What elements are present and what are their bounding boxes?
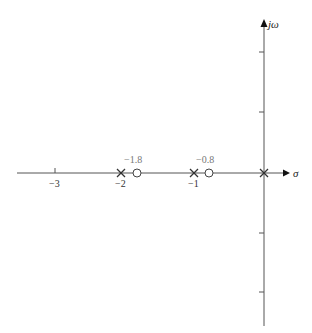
zero-label-minus-0-8: −0.8 <box>196 154 214 165</box>
zero-marker-minus-0-8 <box>205 169 213 177</box>
real-axis-arrow-icon <box>283 170 290 177</box>
zero-marker-minus-1-8 <box>133 169 141 177</box>
imaginary-axis-label: jω <box>266 18 279 30</box>
tick-label-minus-3: −3 <box>49 178 60 189</box>
tick-label-minus-1: −1 <box>188 178 199 189</box>
real-axis-label: σ <box>293 167 299 179</box>
imaginary-axis-arrow-icon <box>261 19 268 27</box>
pole-zero-diagram: σ jω −3 −2 −1 −1.8 −0.8 <box>0 0 312 333</box>
zero-label-minus-1-8: −1.8 <box>124 154 142 165</box>
tick-label-minus-2: −2 <box>115 178 126 189</box>
